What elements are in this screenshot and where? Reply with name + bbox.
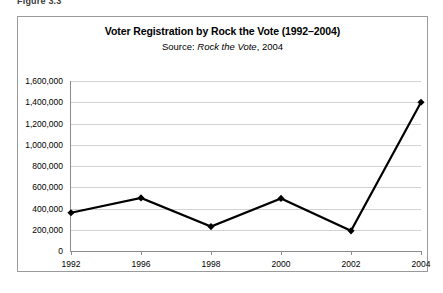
- x-axis-tick-label: 2004: [412, 259, 431, 269]
- y-axis-tick-label: 800,000: [32, 161, 63, 171]
- x-axis-tick-mark: [351, 251, 352, 255]
- x-axis-tick-mark: [71, 251, 72, 255]
- subtitle-prefix: Source:: [162, 41, 197, 52]
- x-axis-tick-mark: [421, 251, 422, 255]
- data-point-marker: [137, 194, 144, 201]
- x-axis-tick-mark: [141, 251, 142, 255]
- subtitle-source: Rock the Vote: [197, 41, 256, 52]
- chart-title: Voter Registration by Rock the Vote (199…: [18, 25, 427, 37]
- subtitle-suffix: , 2004: [257, 41, 283, 52]
- x-axis-tick-mark: [281, 251, 282, 255]
- figure-caption: Figure 3.3: [17, 0, 62, 7]
- data-point-marker: [67, 209, 74, 216]
- x-axis-tick-label: 1998: [202, 259, 221, 269]
- y-axis-tick-label: 400,000: [32, 204, 63, 214]
- x-axis-tick-label: 1992: [62, 259, 81, 269]
- x-axis-tick-label: 1996: [132, 259, 151, 269]
- y-axis-tick-label: 600,000: [32, 182, 63, 192]
- x-axis-tick-label: 2000: [272, 259, 291, 269]
- y-axis-tick-label: 200,000: [32, 225, 63, 235]
- y-axis-tick-label: 1,000,000: [25, 140, 63, 150]
- y-axis-tick-label: 0: [58, 246, 63, 256]
- y-axis-tick-label: 1,200,000: [25, 119, 63, 129]
- series-line-voter-registration: [71, 81, 421, 251]
- x-axis-tick-mark: [211, 251, 212, 255]
- x-axis-tick-label: 2002: [342, 259, 361, 269]
- x-axis-line: [70, 251, 422, 252]
- data-point-marker: [277, 195, 284, 202]
- chart-subtitle: Source: Rock the Vote, 2004: [18, 41, 427, 52]
- series-line: [71, 102, 421, 231]
- y-axis-tick-label: 1,400,000: [25, 97, 63, 107]
- y-axis-tick-label: 1,600,000: [25, 76, 63, 86]
- data-point-marker: [207, 223, 214, 230]
- chart-frame: Voter Registration by Rock the Vote (199…: [17, 16, 428, 272]
- plot-area: 0200,000400,000600,000800,0001,000,0001,…: [71, 81, 421, 251]
